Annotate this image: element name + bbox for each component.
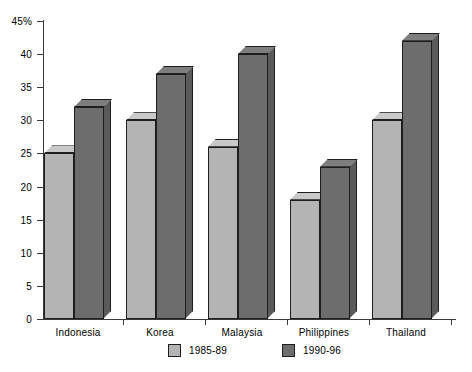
- bar-indonesia-1985-89: [44, 153, 74, 319]
- legend-label-1990-96: 1990-96: [303, 345, 341, 357]
- bar-thailand-1990-96: [402, 41, 432, 319]
- bar-philippines-1985-89: [290, 200, 320, 319]
- y-axis-tick-label: 0: [26, 315, 32, 325]
- x-axis-tick: [205, 320, 206, 325]
- y-axis-tick-label: 10: [20, 249, 32, 259]
- y-axis-tick-label: 25: [20, 149, 32, 159]
- y-axis-tick: 25: [37, 153, 43, 154]
- x-axis-label-malaysia: Malaysia: [221, 327, 262, 339]
- y-axis-tick-label: 30: [20, 116, 32, 126]
- legend-item-1985-89: 1985-89: [168, 344, 227, 357]
- bar-philippines-1990-96-side: [349, 159, 357, 319]
- bar-philippines-1990-96: [320, 167, 350, 319]
- y-axis-tick: 30: [37, 120, 43, 121]
- y-axis-tick: 35: [37, 87, 43, 88]
- legend-label-1985-89: 1985-89: [189, 345, 227, 357]
- bar-chart: 45%4035302520151050 IndonesiaKoreaMalays…: [0, 0, 472, 372]
- y-axis-tick: 5: [37, 286, 43, 287]
- bar-malaysia-1985-89: [208, 147, 238, 319]
- bar-indonesia-1990-96-side: [103, 99, 111, 319]
- y-axis-tick-label: 5: [26, 282, 32, 292]
- bar-korea-1985-89: [126, 120, 156, 319]
- bar-thailand-1990-96-side: [431, 33, 439, 319]
- x-axis-label-philippines: Philippines: [299, 327, 350, 339]
- bar-indonesia-1990-96: [74, 107, 104, 319]
- x-axis-tick: [123, 320, 124, 325]
- x-axis-tick: [287, 320, 288, 325]
- bar-korea-1990-96: [156, 74, 186, 319]
- y-axis-tick-label: 15: [20, 216, 32, 226]
- x-axis-tick: [451, 320, 452, 325]
- bar-malaysia-1990-96: [238, 54, 268, 319]
- legend-swatch-1990-96: [282, 344, 295, 357]
- y-axis-tick-label: 20: [20, 183, 32, 193]
- y-axis-tick: 15: [37, 220, 43, 221]
- y-axis-tick-label: 45%: [11, 17, 32, 27]
- bar-thailand-1985-89: [372, 120, 402, 319]
- y-axis-tick-label: 40: [20, 50, 32, 60]
- y-axis-tick: 20: [37, 187, 43, 188]
- x-axis-label-thailand: Thailand: [386, 327, 426, 339]
- bar-malaysia-1990-96-side: [267, 46, 275, 319]
- x-axis-label-indonesia: Indonesia: [55, 327, 100, 339]
- x-axis-line: [43, 319, 456, 320]
- chart-legend: 1985-891990-96: [0, 344, 472, 364]
- y-axis-tick: 40: [37, 54, 43, 55]
- y-axis-tick: 0: [37, 319, 43, 320]
- y-axis-tick: 45%: [37, 21, 43, 22]
- legend-item-1990-96: 1990-96: [282, 344, 341, 357]
- bar-korea-1990-96-side: [185, 66, 193, 319]
- y-axis-tick-label: 35: [20, 83, 32, 93]
- x-axis-label-korea: Korea: [146, 327, 174, 339]
- x-axis-tick: [369, 320, 370, 325]
- y-axis-tick: 10: [37, 253, 43, 254]
- legend-swatch-1985-89: [168, 344, 181, 357]
